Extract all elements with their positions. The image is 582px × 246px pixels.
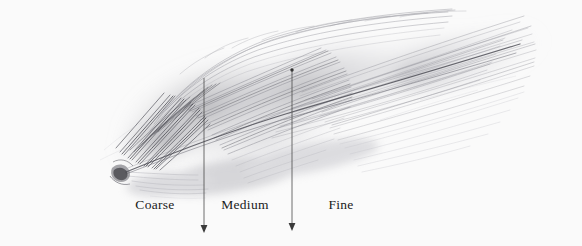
feather-diagram: Coarse Medium Fine [0, 0, 582, 246]
feather-drawing [0, 0, 582, 246]
